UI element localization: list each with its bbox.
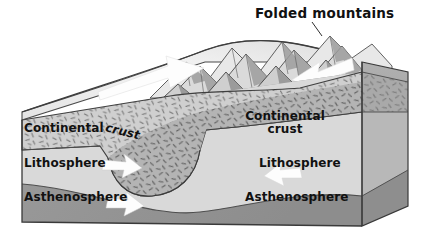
right-side-face [362,62,408,226]
block-diagram-illustration [0,0,426,237]
diagram-canvas: Folded mountains Continentalcrust Lithos… [0,0,426,237]
title-leader-line-icon [312,22,322,36]
